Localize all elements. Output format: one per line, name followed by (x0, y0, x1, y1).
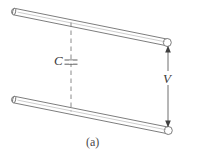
capacitance-label: C (54, 54, 63, 67)
upper-rod-highlight (18, 12, 166, 42)
upper-rod (11, 8, 171, 47)
figure-container: C V (a) (0, 0, 204, 160)
figure-caption: (a) (86, 136, 99, 148)
capacitor-gap (69, 61, 73, 64)
voltage-label: V (163, 72, 171, 85)
figure-drawing (0, 0, 204, 160)
upper-rod-right-terminal (163, 39, 171, 47)
lower-rod-highlight (18, 100, 167, 130)
capacitor-plates-icon (65, 60, 78, 64)
lower-rod (11, 96, 172, 135)
lower-rod-right-terminal (164, 127, 172, 135)
voltage-arrow (164, 46, 174, 128)
